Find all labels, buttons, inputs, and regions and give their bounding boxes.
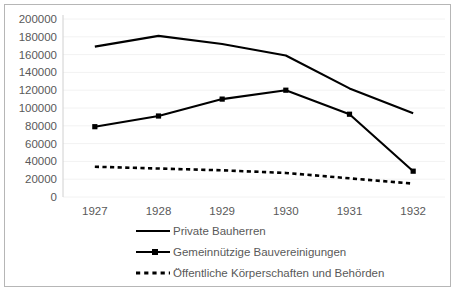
y-tick-label: 60000 — [25, 138, 57, 150]
x-axis-tick-labels: 192719281929193019311932 — [82, 205, 426, 217]
data-point-marker — [283, 88, 288, 93]
x-tick-label: 1928 — [146, 205, 172, 217]
series-line-3 — [95, 167, 413, 184]
x-tick-label: 1931 — [337, 205, 363, 217]
y-tick-label: 120000 — [19, 84, 57, 96]
gridlines — [63, 19, 445, 197]
x-tick-label: 1930 — [273, 205, 299, 217]
y-tick-label: 160000 — [19, 49, 57, 61]
y-tick-label: 20000 — [25, 173, 57, 185]
data-point-marker — [347, 112, 352, 117]
legend-item-label: Private Bauherren — [173, 225, 266, 237]
y-tick-label: 200000 — [19, 13, 57, 25]
y-tick-label: 100000 — [19, 102, 57, 114]
x-tick-label: 1932 — [400, 205, 426, 217]
x-tick-label: 1929 — [209, 205, 235, 217]
legend-item-label: Gemeinnützige Bauvereinigungen — [173, 246, 346, 258]
chart-container: 0200004000060000800001000001200001400001… — [4, 4, 451, 287]
y-axis-tick-labels: 0200004000060000800001000001200001400001… — [19, 13, 57, 203]
legend-swatch-marker — [152, 249, 158, 255]
x-tick-label: 1927 — [82, 205, 108, 217]
chart-legend: Private BauherrenGemeinnützige Bauverein… — [136, 225, 384, 279]
y-tick-label: 140000 — [19, 66, 57, 78]
series-line-1 — [95, 36, 413, 113]
data-point-marker — [220, 97, 225, 102]
y-tick-label: 80000 — [25, 120, 57, 132]
y-tick-label: 0 — [51, 191, 57, 203]
line-chart: 0200004000060000800001000001200001400001… — [5, 5, 452, 288]
legend-item-label: Öffentliche Körperschaften und Behörden — [173, 267, 384, 279]
y-tick-label: 40000 — [25, 155, 57, 167]
data-point-marker — [92, 124, 97, 129]
series-line-2 — [95, 90, 413, 171]
data-point-marker — [411, 169, 416, 174]
data-point-marker — [156, 113, 161, 118]
y-tick-label: 180000 — [19, 31, 57, 43]
